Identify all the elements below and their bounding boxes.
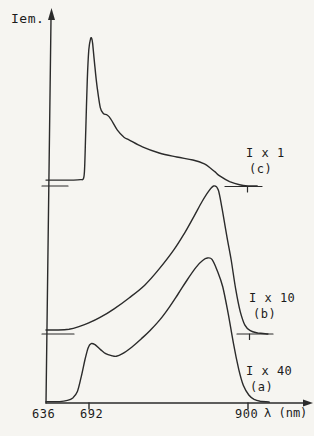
curve-a-name-label: (a) bbox=[250, 380, 273, 394]
curve-b-name-label: (b) bbox=[253, 307, 276, 321]
curve-c-name-label: (c) bbox=[249, 162, 272, 176]
y-axis-arrow-icon bbox=[48, 8, 55, 20]
x-tick-label-636: 636 bbox=[32, 407, 55, 421]
y-axis-line bbox=[46, 19, 51, 403]
spectrum-curve-b bbox=[46, 186, 268, 334]
x-axis-label: λ (nm) bbox=[264, 406, 307, 420]
emission-spectra-figure: Iem. I x 1 (c) I x 10 (b) I x 40 (a) 636… bbox=[0, 0, 314, 436]
spectrum-curve-c bbox=[46, 38, 257, 186]
x-tick-label-900: 900 bbox=[235, 407, 258, 421]
curve-a-gain-label: I x 40 bbox=[246, 364, 292, 378]
y-axis-label: Iem. bbox=[11, 12, 44, 26]
curve-b-gain-label: I x 10 bbox=[249, 291, 295, 305]
spectrum-curve-a bbox=[46, 258, 269, 402]
x-tick-label-692: 692 bbox=[80, 407, 103, 421]
curve-c-gain-label: I x 1 bbox=[246, 146, 285, 160]
